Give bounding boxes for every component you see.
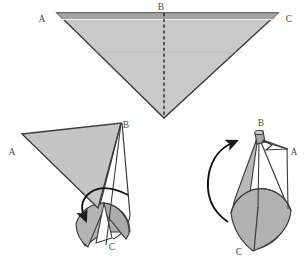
cone-tip-ellipse: [255, 130, 264, 134]
panel-cone: B A C: [208, 118, 298, 257]
panel-flat-triangle: A B C: [39, 2, 293, 118]
partial-roll-flap-shape: [22, 123, 121, 208]
motion-arrow-cone: [208, 143, 232, 222]
flat-triangle-shape: [57, 13, 278, 118]
panel-partial-roll: A B C: [9, 120, 130, 252]
edge-A-to-disc: [287, 149, 288, 209]
label-B-cone: B: [258, 118, 264, 128]
label-B-partial: B: [123, 120, 129, 130]
label-C-flat: C: [286, 14, 292, 24]
label-A-partial: A: [9, 147, 16, 157]
label-A-flat: A: [39, 14, 46, 24]
label-B-flat: B: [158, 2, 164, 12]
label-C-partial: C: [109, 242, 115, 252]
label-A-cone: A: [291, 147, 298, 157]
triangle-to-cone-diagram: A B C A B C: [0, 0, 304, 263]
label-C-cone: C: [236, 247, 242, 257]
figure-root: A B C A B C: [0, 0, 304, 263]
cone-bottom-disc: [231, 189, 291, 251]
triangle-top-edge-band: [57, 13, 278, 19]
